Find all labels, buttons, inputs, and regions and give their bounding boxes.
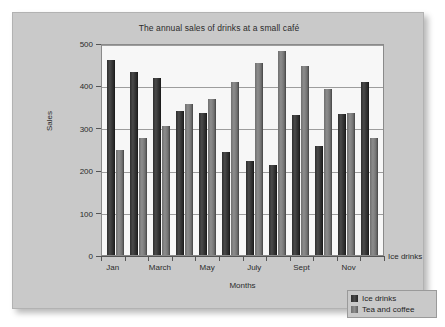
bar-march-tea-and-coffee — [162, 126, 170, 255]
x-tick-label-nov: Nov — [337, 263, 361, 277]
bar-aug-tea-and-coffee — [278, 51, 286, 255]
x-tick-0 — [101, 256, 102, 261]
bar-group-june — [219, 45, 242, 255]
x-tick-label-aug — [266, 263, 290, 277]
legend-label: Tea and coffee — [362, 305, 414, 314]
x-tick-8 — [290, 256, 291, 261]
legend-item-tea-and-coffee[interactable]: Tea and coffee — [351, 304, 433, 315]
y-tick-label-300: 300 — [80, 124, 93, 133]
bar-nov-ice-drinks — [338, 114, 346, 255]
bar-group-feb — [127, 45, 150, 255]
bar-oct-tea-and-coffee — [324, 89, 332, 255]
x-tick-label-april — [172, 263, 196, 277]
bar-june-tea-and-coffee — [231, 82, 239, 255]
x-tick-2 — [148, 256, 149, 261]
bar-march-ice-drinks — [153, 78, 161, 255]
bar-sept-tea-and-coffee — [301, 66, 309, 255]
x-tick-label-jan: Jan — [101, 263, 125, 277]
bar-may-tea-and-coffee — [208, 99, 216, 255]
bar-july-tea-and-coffee — [255, 63, 263, 255]
bar-groups — [102, 45, 383, 255]
x-tick-5 — [219, 256, 220, 261]
bar-sept-ice-drinks — [292, 115, 300, 255]
x-tick-label-dec — [360, 263, 384, 277]
bar-group-april — [173, 45, 196, 255]
x-tick-11 — [360, 256, 361, 261]
y-tick-label-100: 100 — [80, 209, 93, 218]
bar-nov-tea-and-coffee — [347, 113, 355, 255]
y-axis-title: Sales — [45, 111, 54, 131]
bar-group-aug — [266, 45, 289, 255]
x-tick-label-sept: Sept — [290, 263, 314, 277]
x-tick-9 — [313, 256, 314, 261]
x-tick-label-feb — [125, 263, 149, 277]
bar-group-july — [242, 45, 265, 255]
y-tick-label-0: 0 — [89, 252, 93, 261]
x-tick-10 — [337, 256, 338, 261]
bar-group-sept — [289, 45, 312, 255]
legend-label: Ice drinks — [362, 294, 396, 303]
bar-group-march — [150, 45, 173, 255]
x-tick-3 — [172, 256, 173, 261]
x-tick-label-july: July — [242, 263, 266, 277]
bar-aug-ice-drinks — [269, 165, 277, 255]
chart-panel: The annual sales of drinks at a small ca… — [12, 12, 424, 309]
x-axis-labels: JanMarchMayJulySeptNov — [101, 263, 384, 277]
bar-dec-tea-and-coffee — [370, 138, 378, 255]
bar-oct-ice-drinks — [315, 146, 323, 255]
bar-feb-tea-and-coffee — [139, 138, 147, 255]
bar-july-ice-drinks — [246, 161, 254, 255]
chart-screenshot: The annual sales of drinks at a small ca… — [0, 0, 445, 327]
bar-may-ice-drinks — [199, 113, 207, 255]
bar-group-nov — [335, 45, 358, 255]
bar-jan-ice-drinks — [107, 60, 115, 255]
bar-april-tea-and-coffee — [185, 104, 193, 255]
bar-group-jan — [104, 45, 127, 255]
x-tick-label-oct — [313, 263, 337, 277]
legend-swatch-icon-ice — [351, 295, 358, 302]
chart-legend: Ice drinksTea and coffee — [347, 290, 437, 318]
x-axis-title: Months — [101, 281, 384, 290]
y-tick-label-200: 200 — [80, 167, 93, 176]
x-tick-1 — [125, 256, 126, 261]
bar-april-ice-drinks — [176, 111, 184, 255]
x-tick-label-june — [219, 263, 243, 277]
bar-group-oct — [312, 45, 335, 255]
x-tick-label-march: March — [148, 263, 172, 277]
x-tick-label-may: May — [195, 263, 219, 277]
bar-dec-ice-drinks — [361, 82, 369, 255]
y-tick-label-500: 500 — [80, 40, 93, 49]
legend-item-ice-drinks[interactable]: Ice drinks — [351, 293, 433, 304]
bar-group-dec — [358, 45, 381, 255]
x-tick-4 — [195, 256, 196, 261]
x-tick-7 — [266, 256, 267, 261]
bar-group-may — [196, 45, 219, 255]
y-tick-label-400: 400 — [80, 82, 93, 91]
x-axis-ticks — [101, 256, 384, 261]
bar-feb-ice-drinks — [130, 72, 138, 255]
plot-area — [101, 44, 384, 256]
chart-title: The annual sales of drinks at a small ca… — [13, 23, 425, 33]
x-tick-6 — [243, 256, 244, 261]
axis-stray-series-label: Ice drinks — [388, 252, 422, 261]
x-tick-12 — [384, 256, 385, 261]
legend-swatch-icon-tea — [351, 306, 358, 313]
bar-jan-tea-and-coffee — [116, 150, 124, 255]
bar-june-ice-drinks — [222, 152, 230, 255]
